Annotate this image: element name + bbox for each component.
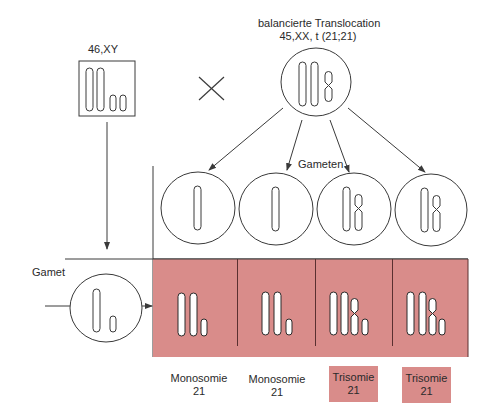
cross-icon <box>199 77 224 100</box>
result-3-type: Trisomie <box>329 371 378 384</box>
chromosome-short <box>120 95 126 111</box>
result-2-type: Monosomie <box>248 373 306 386</box>
diagram-canvas <box>0 0 498 414</box>
result-4: Trisomie 21 <box>402 367 451 403</box>
father-karyotype-label: 46,XY <box>88 43 118 56</box>
mother-title-label: balancierte Translocation <box>258 17 378 30</box>
chromosome-short <box>110 95 116 111</box>
mother-karyotype-circle <box>281 48 351 116</box>
result-1: Monosomie 21 <box>170 370 228 400</box>
maternal-gamete-2 <box>239 173 313 245</box>
result-2-chromosome: 21 <box>248 386 306 399</box>
gametes-label: Gameten <box>298 158 343 171</box>
maternal-gamete-3 <box>317 173 391 245</box>
paternal-gamete-label: Gamet <box>32 266 65 279</box>
result-3-chromosome: 21 <box>329 384 378 397</box>
result-4-type: Trisomie <box>402 372 451 385</box>
chromosome-long <box>86 68 93 111</box>
chromosome-long <box>97 68 104 111</box>
father-karyotype-box <box>79 61 135 116</box>
result-2: Monosomie 21 <box>248 371 306 401</box>
result-1-type: Monosomie <box>170 372 228 385</box>
maternal-gamete-1 <box>161 172 235 244</box>
paternal-gamete <box>70 274 142 342</box>
maternal-gamete-4 <box>395 174 467 246</box>
result-1-chromosome: 21 <box>170 385 228 398</box>
result-3: Trisomie 21 <box>329 366 378 402</box>
mother-karyotype-label: 45,XX, t (21;21) <box>270 30 366 43</box>
result-4-chromosome: 21 <box>402 385 451 398</box>
